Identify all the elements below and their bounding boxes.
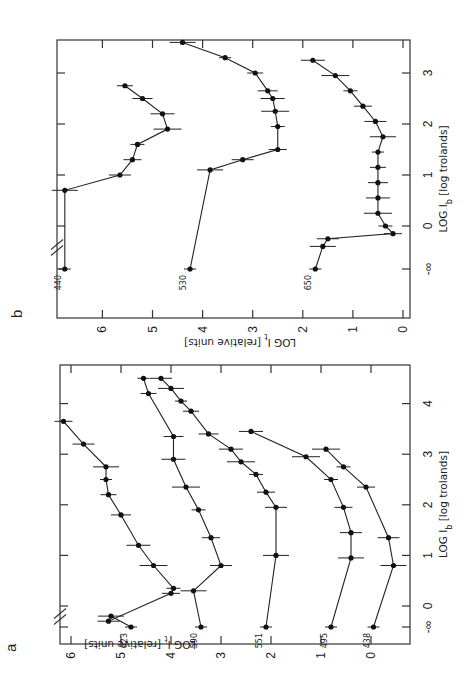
data-point: [128, 624, 133, 629]
data-point: [270, 96, 275, 101]
x-tick-label: -∞: [421, 263, 435, 276]
data-point: [130, 157, 135, 162]
x-axis-title: LOG Ib [log trolands]: [437, 451, 454, 558]
data-point: [380, 134, 385, 139]
plot-frame: [60, 365, 410, 644]
y-tick-label: 4: [164, 652, 178, 659]
data-point: [303, 454, 308, 459]
data-point: [375, 211, 380, 216]
data-point: [188, 409, 193, 414]
series-label: 495: [320, 633, 329, 648]
data-point: [248, 429, 253, 434]
data-point: [228, 447, 233, 452]
y-tick-label: 4: [196, 326, 210, 333]
series-line: [64, 421, 174, 627]
data-point: [223, 55, 228, 60]
data-point: [273, 553, 278, 558]
data-point: [218, 563, 223, 568]
x-tick-label: 0: [421, 222, 435, 229]
data-point: [390, 231, 395, 236]
series-label: 440: [54, 275, 63, 290]
data-point: [61, 419, 66, 424]
y-tick-label: 0: [364, 652, 378, 659]
data-point: [158, 376, 163, 381]
data-point: [146, 391, 151, 396]
data-point: [360, 104, 365, 109]
data-point: [238, 459, 243, 464]
data-point: [62, 266, 67, 271]
data-point: [191, 588, 196, 593]
x-tick-label: 1: [421, 171, 435, 178]
data-point: [363, 484, 368, 489]
series-650: 650: [301, 58, 402, 291]
data-point: [341, 464, 346, 469]
data-point: [348, 555, 353, 560]
data-point: [328, 624, 333, 629]
panel-label: b: [8, 310, 25, 318]
data-point: [265, 88, 270, 93]
data-point: [117, 172, 122, 177]
data-point: [375, 149, 380, 154]
y-tick-label: 2: [264, 652, 278, 659]
series-530: 530: [170, 40, 290, 290]
data-point: [81, 441, 86, 446]
series-623: 623: [55, 419, 181, 649]
data-point: [136, 543, 141, 548]
data-point: [386, 535, 391, 540]
y-tick-label: 6: [95, 326, 109, 333]
data-point: [333, 73, 338, 78]
data-point: [171, 586, 176, 591]
x-tick-label: 2: [421, 501, 435, 508]
data-point: [198, 624, 203, 629]
data-point: [373, 119, 378, 124]
series-label: 530: [179, 275, 188, 290]
data-point: [328, 477, 333, 482]
data-point: [106, 619, 111, 624]
y-tick-label: 2: [296, 326, 310, 333]
data-point: [196, 507, 201, 512]
data-point: [103, 477, 108, 482]
data-point: [348, 88, 353, 93]
x-tick-label: 1: [421, 552, 435, 559]
y-tick-label: 5: [146, 326, 160, 333]
data-point: [375, 180, 380, 185]
x-tick-label: 4: [421, 400, 435, 407]
data-point: [208, 535, 213, 540]
data-point: [391, 563, 396, 568]
series-590: 590: [138, 376, 233, 649]
data-point: [141, 376, 146, 381]
y-axis-title: LOG It [relative units]: [184, 333, 296, 350]
data-point: [206, 431, 211, 436]
y-axis-title: LOG It [relative units]: [84, 635, 196, 652]
x-tick-label: 0: [421, 602, 435, 609]
data-point: [168, 591, 173, 596]
x-tick-label: 3: [421, 451, 435, 458]
data-point: [140, 96, 145, 101]
data-point: [106, 492, 111, 497]
data-point: [180, 40, 185, 45]
x-tick-label: -∞: [421, 621, 435, 634]
data-point: [178, 398, 183, 403]
data-point: [273, 505, 278, 510]
data-point: [263, 624, 268, 629]
data-point: [275, 147, 280, 152]
y-tick-label: 6: [64, 652, 78, 659]
data-point: [168, 386, 173, 391]
figure: a0123456-∞01234LOG Ib [log trolands]LOG …: [0, 0, 473, 699]
x-tick-label: 3: [421, 69, 435, 76]
data-point: [313, 266, 318, 271]
data-point: [171, 434, 176, 439]
series-label: 438: [363, 633, 372, 648]
series-line: [251, 431, 351, 627]
data-point: [341, 505, 346, 510]
data-point: [273, 109, 278, 114]
data-point: [165, 127, 170, 132]
y-tick-label: 3: [246, 326, 260, 333]
y-tick-label: 1: [314, 652, 328, 659]
x-tick-label: 2: [421, 120, 435, 127]
y-tick-label: 0: [396, 326, 410, 333]
data-point: [208, 167, 213, 172]
series-line: [161, 378, 276, 627]
plot-frame: [57, 40, 410, 318]
y-tick-label: 3: [214, 652, 228, 659]
